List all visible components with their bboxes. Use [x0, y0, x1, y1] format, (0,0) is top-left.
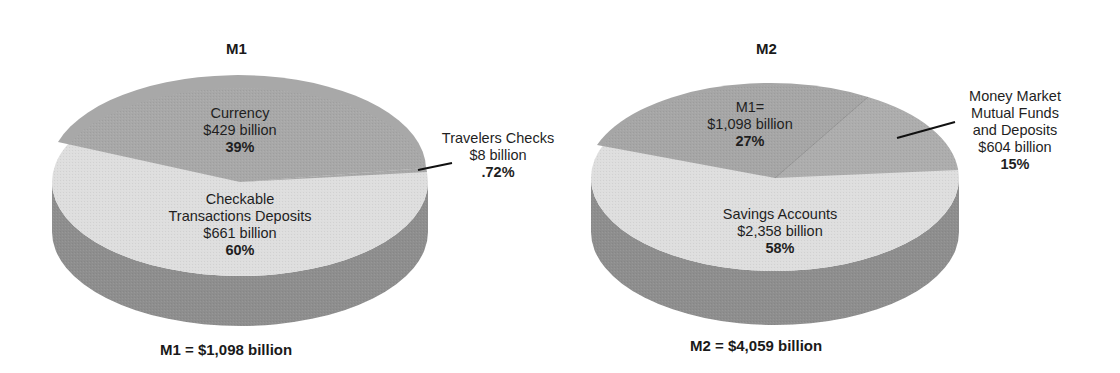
- mmmf-value: $604 billion: [955, 139, 1075, 156]
- m1-checkable-label: Checkable Transactions Deposits $661 bil…: [140, 191, 340, 259]
- travelers-percent: .72%: [428, 164, 568, 181]
- savings-value: $2,358 billion: [700, 223, 860, 240]
- mmmf-name-line2: Mutual Funds: [955, 105, 1075, 122]
- m2-title: M2: [756, 40, 777, 57]
- mmmf-name-line3: and Deposits: [955, 122, 1075, 139]
- checkable-value: $661 billion: [140, 225, 340, 242]
- checkable-name-line1: Checkable: [140, 191, 340, 208]
- savings-percent: 58%: [700, 240, 860, 257]
- m1-currency-label: Currency $429 billion 39%: [180, 105, 300, 156]
- travelers-value: $8 billion: [428, 147, 568, 164]
- mmmf-name-line1: Money Market: [955, 88, 1075, 105]
- savings-name: Savings Accounts: [700, 206, 860, 223]
- currency-value: $429 billion: [180, 122, 300, 139]
- m1-title: M1: [226, 40, 247, 57]
- mmmf-percent: 15%: [955, 156, 1075, 173]
- m2-m1-value: $1,098 billion: [690, 116, 810, 133]
- currency-percent: 39%: [180, 139, 300, 156]
- m2-mmmf-label: Money Market Mutual Funds and Deposits $…: [955, 88, 1075, 173]
- m1-travelers-label: Travelers Checks $8 billion .72%: [428, 130, 568, 181]
- checkable-name-line2: Transactions Deposits: [140, 208, 340, 225]
- m1-total: M1 = $1,098 billion: [160, 341, 292, 358]
- currency-name: Currency: [180, 105, 300, 122]
- m2-m1-percent: 27%: [690, 133, 810, 150]
- m2-m1-label: M1= $1,098 billion 27%: [690, 99, 810, 150]
- travelers-name: Travelers Checks: [428, 130, 568, 147]
- m2-m1-name: M1=: [690, 99, 810, 116]
- checkable-percent: 60%: [140, 242, 340, 259]
- pie-charts-canvas: [0, 0, 1120, 373]
- m2-savings-label: Savings Accounts $2,358 billion 58%: [700, 206, 860, 257]
- m2-total: M2 = $4,059 billion: [690, 337, 822, 354]
